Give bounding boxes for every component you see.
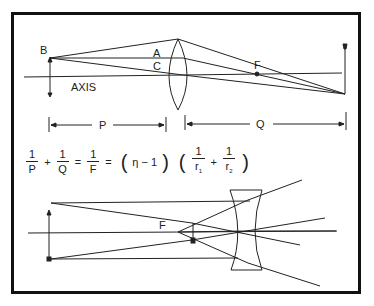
denominator: F <box>90 162 97 176</box>
numerator: 1 <box>192 145 204 159</box>
ray-parallel-bottom <box>51 258 238 259</box>
label-b: B <box>40 44 47 56</box>
arrow-tail-icon <box>191 238 195 243</box>
fraction-1-over-q: 1 Q <box>57 148 69 176</box>
label-c: C <box>153 60 161 72</box>
plus-sign: + <box>211 156 217 168</box>
arrowhead-icon <box>51 123 56 127</box>
arrowhead-icon <box>339 122 344 126</box>
paren-close: ) <box>162 152 169 172</box>
numerator: 1 <box>26 148 38 162</box>
label-q: Q <box>256 118 265 130</box>
refractive-index-term: η − 1 <box>132 156 157 168</box>
fraction-1-over-r1: 1 r1 <box>192 145 204 178</box>
equals-sign: = <box>75 156 81 168</box>
label-focal-point: F <box>254 59 261 71</box>
plus-sign: + <box>44 156 50 168</box>
label-a: A <box>153 47 161 59</box>
denominator: Q <box>58 162 67 176</box>
paren-close: ) <box>242 152 249 172</box>
ray-diverge-down <box>178 232 320 286</box>
fraction-1-over-r2: 1 r2 <box>223 145 235 178</box>
fraction-1-over-p: 1 P <box>26 148 38 176</box>
label-axis: AXIS <box>71 81 96 93</box>
numerator: 1 <box>87 148 99 162</box>
object-arrow-tail <box>48 93 52 97</box>
label-p: P <box>99 119 106 131</box>
label-focal-point-lower: F <box>159 219 166 231</box>
paren-open: ( <box>121 152 128 172</box>
denominator: P <box>28 162 35 176</box>
arrowhead-icon <box>159 123 164 127</box>
numerator: 1 <box>57 148 69 162</box>
paren-open: ( <box>179 152 186 172</box>
numerator: 1 <box>223 145 235 159</box>
subscript: 1 <box>199 169 202 175</box>
focal-point-dot <box>255 72 259 76</box>
arrow-tail-icon <box>47 257 51 261</box>
ray-cross-1 <box>51 203 300 245</box>
denominator: r2 <box>226 159 233 178</box>
ray-parallel-top <box>51 201 250 203</box>
fraction-1-over-f: 1 F <box>87 148 99 176</box>
equals-sign: = <box>105 156 111 168</box>
arrowhead-icon <box>187 122 192 126</box>
arrowhead-icon <box>47 210 51 215</box>
image-arrow-tail <box>343 44 347 49</box>
lens-maker-equation: 1 P + 1 Q = 1 F = ( η − 1 ) ( 1 r1 + 1 r… <box>24 140 254 184</box>
subscript: 2 <box>229 169 232 175</box>
denominator: r1 <box>195 159 202 178</box>
ray-cross-2 <box>51 218 325 259</box>
